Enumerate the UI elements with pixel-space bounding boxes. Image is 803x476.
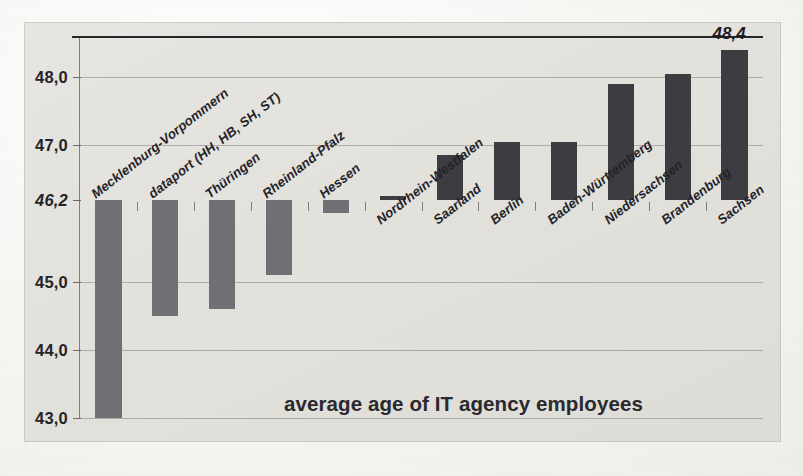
x-tick bbox=[706, 202, 707, 211]
bar-dataport-hh-hb-sh-st[interactable] bbox=[152, 200, 178, 316]
y-tick-48,0 bbox=[73, 77, 81, 78]
category-label-th-ringen: Thüringen bbox=[203, 149, 264, 201]
y-tick-44,0 bbox=[73, 350, 81, 351]
category-label-nordrhein-westfalen: Nordrhein-Westfalen bbox=[373, 134, 486, 227]
x-tick bbox=[478, 202, 479, 211]
x-tick bbox=[422, 202, 423, 211]
x-tick bbox=[365, 202, 366, 211]
gridline-43,0 bbox=[80, 418, 763, 419]
gridline-45,0 bbox=[80, 282, 763, 283]
x-tick bbox=[535, 202, 536, 211]
y-axis-label-46,2: 46,2 bbox=[35, 190, 68, 209]
chart-title: average age of IT agency employees bbox=[284, 392, 643, 416]
value-axis-line bbox=[79, 36, 80, 418]
y-axis-label-48,0: 48,0 bbox=[35, 67, 68, 86]
data-label-sachsen: 48,4 bbox=[713, 24, 746, 44]
y-tick-43,0 bbox=[73, 418, 81, 419]
y-tick-46,2 bbox=[73, 200, 81, 201]
bar-baden-w-rttemberg[interactable] bbox=[551, 142, 577, 200]
bar-rheinland-pfalz[interactable] bbox=[266, 200, 292, 275]
bar-mecklenburg-vorpommern[interactable] bbox=[95, 200, 121, 418]
bar-berlin[interactable] bbox=[494, 142, 520, 200]
x-tick bbox=[649, 202, 650, 211]
x-tick bbox=[308, 202, 309, 211]
bar-chart: 48,047,046,245,044,043,0 Mecklenburg-Vor… bbox=[24, 22, 781, 442]
y-axis-label-43,0: 43,0 bbox=[35, 409, 68, 428]
y-axis-label-44,0: 44,0 bbox=[35, 340, 68, 359]
y-tick-47,0 bbox=[73, 145, 81, 146]
gridline-47,0 bbox=[80, 145, 763, 146]
bar-hessen[interactable] bbox=[323, 200, 349, 214]
category-label-hessen: Hessen bbox=[316, 160, 363, 201]
y-axis-label-45,0: 45,0 bbox=[35, 272, 68, 291]
x-tick bbox=[592, 202, 593, 211]
baseline-46-2 bbox=[72, 36, 763, 38]
x-tick bbox=[251, 202, 252, 211]
gridline-48,0 bbox=[80, 77, 763, 78]
y-tick-45,0 bbox=[73, 282, 81, 283]
gridline-44,0 bbox=[80, 350, 763, 351]
x-tick bbox=[137, 202, 138, 211]
bar-th-ringen[interactable] bbox=[209, 200, 235, 309]
x-tick bbox=[194, 202, 195, 211]
y-axis-label-47,0: 47,0 bbox=[35, 136, 68, 155]
plot-area: 48,047,046,245,044,043,0 Mecklenburg-Vor… bbox=[80, 36, 763, 418]
bar-niedersachsen[interactable] bbox=[608, 84, 634, 200]
